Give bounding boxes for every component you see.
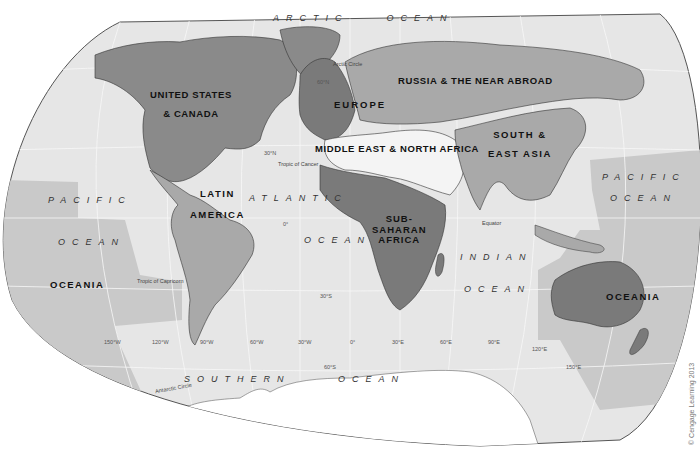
region-line: SOUTH &: [488, 130, 552, 140]
lon-120e-label: 120°E: [532, 347, 547, 353]
region-line: SAHARAN: [372, 225, 427, 235]
lat-60n-label: 60°N: [317, 80, 329, 86]
ocean-label-atlantic-1: ATLANTIC: [249, 194, 348, 203]
ocean-label-pacific-east-1: PACIFIC: [602, 173, 686, 182]
tropic-of-capricorn-label: Tropic of Capricorn: [137, 279, 184, 285]
region-label-us-canada: UNITED STATES & CANADA: [150, 90, 232, 118]
lat-0-label: 0°: [283, 222, 288, 228]
lat-60s-label: 60°S: [324, 365, 336, 371]
region-line: & CANADA: [150, 109, 232, 119]
lon-60e-label: 60°E: [440, 340, 452, 346]
lon-150e-label: 150°E: [566, 365, 581, 371]
copyright-credit: © Cengage Learning 2013: [688, 363, 695, 445]
region-line: SUB-: [372, 214, 427, 224]
region-line: UNITED STATES: [150, 90, 232, 100]
lat-30s-label: 30°S: [320, 294, 332, 300]
lon-90e-label: 90°E: [488, 340, 500, 346]
ocean-label-southern: SOUTHERN OCEAN: [184, 375, 405, 384]
ocean-label-pacific-west-2: OCEAN: [58, 238, 125, 247]
ocean-label-pacific-east-2: OCEAN: [610, 194, 677, 203]
ocean-label-atlantic-2: OCEAN: [304, 236, 371, 245]
lon-30e-label: 30°E: [392, 340, 404, 346]
region-label-europe: EUROPE: [334, 100, 386, 110]
lon-150w-label: 150°W: [104, 340, 121, 346]
region-label-russia: RUSSIA & THE NEAR ABROAD: [398, 76, 553, 86]
arctic-circle-label: Arctic Circle: [333, 62, 362, 68]
lon-0-label: 0°: [350, 340, 355, 346]
equator-label: Equator: [482, 221, 501, 227]
tropic-of-cancer-label: Tropic of Cancer: [278, 162, 318, 168]
ocean-label-indian-2: OCEAN: [464, 285, 531, 294]
lon-120w-label: 120°W: [152, 340, 169, 346]
ocean-label-arctic: ARCTIC OCEAN: [273, 14, 454, 23]
lon-90w-label: 90°W: [200, 340, 214, 346]
region-line: EAST ASIA: [488, 149, 552, 159]
ocean-label-pacific-west-1: PACIFIC: [48, 196, 132, 205]
ocean-label-indian-1: INDIAN: [460, 253, 533, 262]
region-line: LATIN: [190, 189, 245, 199]
lon-30w-label: 30°W: [298, 340, 312, 346]
region-line: AFRICA: [372, 235, 427, 245]
region-label-latin-america: LATIN AMERICA: [190, 189, 245, 219]
region-label-sub-saharan-africa: SUB- SAHARAN AFRICA: [372, 214, 427, 245]
region-label-mena: MIDDLE EAST & NORTH AFRICA: [315, 144, 479, 154]
region-line: AMERICA: [190, 210, 245, 220]
lat-30n-label: 30°N: [264, 151, 276, 157]
region-label-oceania-west: OCEANIA: [50, 280, 104, 290]
region-label-oceania-east: OCEANIA: [606, 292, 660, 302]
region-label-south-east-asia: SOUTH & EAST ASIA: [488, 130, 552, 158]
lon-60w-label: 60°W: [250, 340, 264, 346]
